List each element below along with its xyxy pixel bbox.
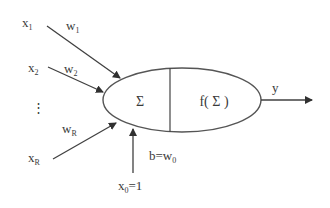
neuron-body: [103, 68, 261, 132]
output-label: y: [272, 80, 279, 95]
neuron-diagram: x1 w1 x2 w2 ⋮ wR xR b=w0 x0=1 Σ f( Σ ) y: [0, 0, 330, 208]
activation-label: f( Σ ): [199, 94, 228, 110]
ellipsis: ⋮: [32, 100, 45, 115]
weight-label-1: w1: [66, 18, 79, 35]
input-label-R: xR: [28, 150, 41, 167]
input-label-1: x1: [22, 15, 33, 32]
bias-label: b=w0: [149, 148, 176, 165]
summation-label: Σ: [136, 94, 144, 109]
weight-label-R: wR: [62, 121, 77, 138]
input-arrow-1: [47, 26, 120, 78]
input-label-2: x2: [28, 60, 39, 77]
weight-label-2: w2: [64, 61, 77, 78]
bias-input-label: x0=1: [118, 178, 142, 195]
